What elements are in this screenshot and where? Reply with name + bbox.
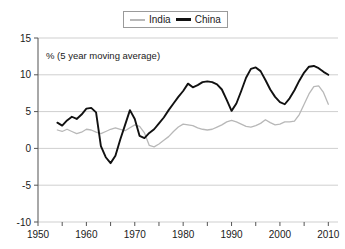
y-axis-tick-labels: 151050-5-10 bbox=[17, 33, 32, 228]
x-tick-label: 1980 bbox=[172, 229, 195, 240]
y-gridlines bbox=[38, 38, 338, 222]
chart-plot-area: 151050-5-10 1950196019701980199020002010 bbox=[0, 0, 345, 249]
x-axis-tick-labels: 1950196019701980199020002010 bbox=[27, 229, 340, 240]
x-tick-label: 1960 bbox=[75, 229, 98, 240]
y-tick-label: -10 bbox=[17, 217, 32, 228]
y-tick-label: 10 bbox=[20, 69, 32, 80]
x-tick-label: 2010 bbox=[317, 229, 340, 240]
series-line-india bbox=[57, 86, 328, 147]
y-tick-label: -5 bbox=[22, 180, 31, 191]
x-axis-ticks bbox=[38, 222, 328, 226]
x-tick-label: 1970 bbox=[124, 229, 147, 240]
y-tick-label: 5 bbox=[25, 106, 31, 117]
x-tick-label: 2000 bbox=[269, 229, 292, 240]
y-tick-label: 15 bbox=[20, 33, 32, 44]
x-tick-label: 1950 bbox=[27, 229, 50, 240]
x-tick-label: 1990 bbox=[220, 229, 243, 240]
y-tick-label: 0 bbox=[25, 143, 31, 154]
chart-container: India China % (5 year moving average) 15… bbox=[0, 0, 345, 249]
